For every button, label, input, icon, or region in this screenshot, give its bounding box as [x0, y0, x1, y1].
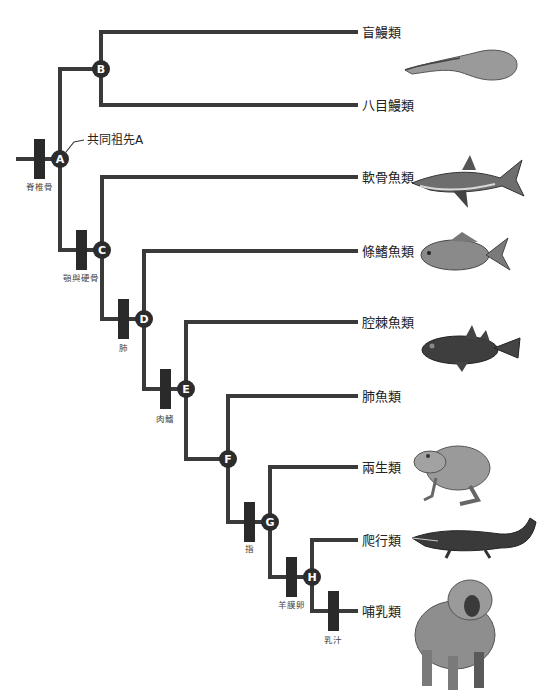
branch-amphibian [270, 467, 356, 522]
taxon-label-reptile: 爬行類 [362, 533, 401, 548]
ancestor-annotation-leader [66, 140, 84, 152]
ancestor-annotation: 共同祖先A [87, 132, 144, 147]
taxon-label-hagfish: 盲鰻類 [362, 25, 401, 40]
node-label: G [265, 516, 274, 529]
frog-illustration [414, 446, 490, 504]
branch-ray-finned [144, 251, 356, 319]
shark-illustration [412, 155, 524, 208]
taxon-label-mammal: 哺乳類 [362, 604, 401, 619]
trait-label-digits: 指 [245, 544, 254, 554]
branch-lungfish [228, 396, 356, 459]
node-c: C [93, 241, 111, 259]
crocodile-illustration [412, 518, 536, 558]
node-label: A [56, 153, 65, 166]
node-label: D [139, 313, 148, 326]
branch-cartilaginous [102, 177, 356, 250]
taxon-label-lamprey: 八目鰻類 [362, 98, 414, 113]
trait-bar-lobe-fins [160, 369, 171, 409]
taxon-label-cartilaginous: 軟骨魚類 [362, 170, 414, 185]
trait-bar-lungs [118, 299, 129, 339]
trait-bar-digits [244, 502, 255, 542]
node-d: D [135, 310, 153, 328]
node-label: C [98, 244, 106, 257]
node-a: A [51, 150, 69, 168]
branch-e-f [186, 389, 228, 459]
taxon-label-coelacanth: 腔棘魚類 [362, 315, 414, 330]
trait-label-vertebrae: 脊椎骨 [26, 182, 53, 192]
node-g: G [261, 513, 279, 531]
node-e: E [177, 380, 195, 398]
branch-lamprey [101, 69, 356, 105]
node-label: B [97, 63, 105, 76]
taxon-label-lungfish: 肺魚類 [362, 389, 401, 404]
trait-label-amniotic-egg: 羊膜卵 [278, 600, 305, 610]
node-f: F [219, 450, 237, 468]
trait-label-milk: 乳汁 [324, 635, 342, 645]
taxon-labels: 盲鰻類 八目鰻類 軟骨魚類 條鰭魚類 腔棘魚類 肺魚類 兩生類 爬行類 哺乳類 [362, 25, 414, 619]
node-label: F [224, 453, 232, 466]
taxon-label-ray-finned: 條鰭魚類 [362, 244, 414, 259]
branch-hagfish [101, 32, 356, 69]
trait-label-lobe-fins: 肉鰭 [156, 414, 174, 424]
node-b: B [92, 60, 110, 78]
trait-bar-milk [328, 591, 339, 631]
baboon-illustration [415, 580, 495, 690]
trait-bar-jaws [76, 230, 87, 270]
node-label: E [182, 383, 190, 396]
trait-bar-vertebrae [34, 139, 45, 179]
eel-illustration [405, 50, 517, 80]
taxon-label-amphibian: 兩生類 [362, 460, 401, 475]
cladogram: ABCDEFGH 共同祖先A 盲鰻類 八目鰻類 軟骨魚類 條鰭魚類 腔棘魚類 肺… [0, 0, 550, 695]
trait-label-lungs: 肺 [119, 343, 128, 353]
branch-coelacanth [186, 322, 356, 389]
coelacanth-illustration [422, 325, 520, 372]
illustrations [405, 50, 536, 690]
branches [18, 32, 356, 611]
trait-label-jaws: 顎與硬骨 [63, 273, 99, 283]
carp-illustration [421, 232, 510, 270]
node-label: H [307, 571, 316, 584]
node-h: H [303, 568, 321, 586]
trait-bar-amniotic-egg [286, 557, 297, 597]
